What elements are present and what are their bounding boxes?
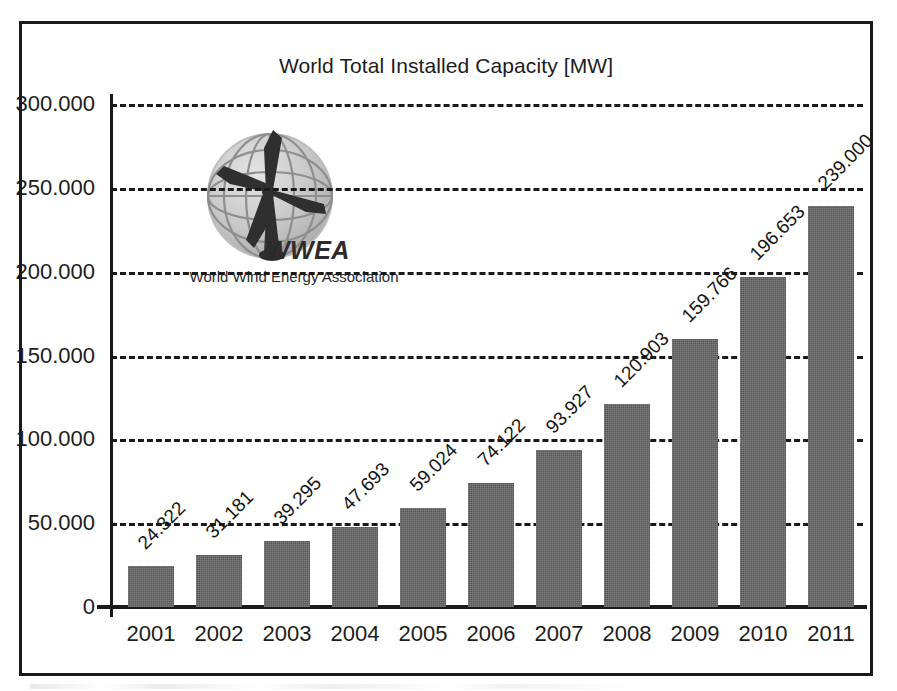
y-axis-tick-label: 300.000: [15, 91, 95, 117]
bar: [468, 483, 514, 607]
bar-group: 47.6932004: [321, 104, 389, 607]
bar: [536, 450, 582, 607]
bar-group: 239.0002011: [797, 104, 865, 607]
x-axis-tick-label: 2011: [797, 621, 865, 647]
x-axis-tick-label: 2004: [321, 621, 389, 647]
x-axis-tick-label: 2007: [525, 621, 593, 647]
bar: [332, 527, 378, 607]
x-axis-tick-label: 2001: [117, 621, 185, 647]
bar: [264, 541, 310, 607]
x-axis-tick-label: 2010: [729, 621, 797, 647]
bar-value-label: 31.181: [201, 486, 258, 543]
x-axis-tick-label: 2008: [593, 621, 661, 647]
bar-group: 74.1222006: [457, 104, 525, 607]
bar-group: 159.7662009: [661, 104, 729, 607]
chart-title: World Total Installed Capacity [MW]: [22, 54, 870, 78]
y-axis-tick-label: 250.000: [15, 175, 95, 201]
plot-area: 050.000100.000150.000200.000250.000300.0…: [111, 104, 863, 607]
bar: [808, 206, 854, 607]
bar-group: 196.6532010: [729, 104, 797, 607]
bar: [196, 555, 242, 607]
chart-screenshot: World Total Installed Capacity [MW]: [0, 0, 897, 691]
bar-group: 120.9032008: [593, 104, 661, 607]
bar: [604, 404, 650, 607]
y-axis-tick-label: 0: [83, 594, 95, 620]
bar: [400, 508, 446, 607]
bar-group: 93.9272007: [525, 104, 593, 607]
chart-frame: World Total Installed Capacity [MW]: [19, 21, 873, 676]
x-axis-tick-label: 2003: [253, 621, 321, 647]
bar: [672, 339, 718, 607]
bar-value-label: 39.295: [269, 472, 326, 529]
bar-group: 39.2952003: [253, 104, 321, 607]
bar-value-label: 47.693: [337, 458, 394, 515]
bar-series: 24.322200131.181200239.295200347.6932004…: [111, 104, 863, 607]
scan-artifact: [30, 684, 630, 689]
x-axis-tick-label: 2005: [389, 621, 457, 647]
bar-group: 24.3222001: [117, 104, 185, 607]
x-axis-tick-label: 2009: [661, 621, 729, 647]
y-axis-tick-label: 50.000: [28, 510, 95, 536]
y-axis-tick-label: 100.000: [15, 426, 95, 452]
bar-value-label: 59.024: [405, 439, 462, 496]
bar-group: 31.1812002: [185, 104, 253, 607]
bar: [128, 566, 174, 607]
bar-group: 59.0242005: [389, 104, 457, 607]
y-axis-tick-label: 150.000: [15, 343, 95, 369]
bar-value-label: 93.927: [541, 381, 598, 438]
bar-value-label: 24.322: [133, 498, 190, 555]
bar-value-label: 239.000: [813, 130, 877, 194]
bar: [740, 277, 786, 607]
y-axis-tick-label: 200.000: [15, 259, 95, 285]
bar-value-label: 74.122: [473, 414, 530, 471]
x-axis-tick-label: 2002: [185, 621, 253, 647]
x-axis-tick-label: 2006: [457, 621, 525, 647]
